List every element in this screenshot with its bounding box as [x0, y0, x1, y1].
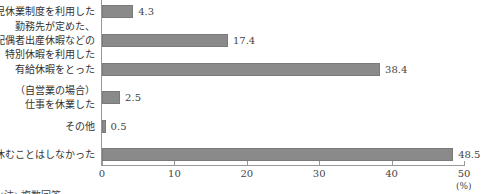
bar-value-label: 17.4	[233, 35, 255, 47]
x-tick	[319, 161, 320, 166]
x-tick	[102, 161, 103, 166]
x-tick-label: 40	[385, 168, 398, 180]
x-tick-label: 50	[458, 168, 471, 180]
bar-value-label: 0.5	[111, 121, 127, 133]
category-label: 勤務先が定めた、配偶者出産休暇などの特別休暇を利用した	[0, 20, 95, 62]
bar	[102, 5, 133, 18]
bar	[102, 34, 228, 47]
category-label: 育児休業制度を利用した	[0, 5, 95, 19]
bar	[102, 120, 106, 133]
x-axis-unit: (%)	[456, 181, 472, 191]
x-tick	[464, 161, 465, 166]
x-tick	[247, 161, 248, 166]
category-label: その他	[65, 120, 95, 134]
x-tick-label: 20	[240, 168, 253, 180]
bar	[102, 91, 120, 104]
category-label: （自営業の場合）仕事を休業した	[15, 84, 95, 112]
x-tick-label: 10	[168, 168, 181, 180]
bar-value-label: 4.3	[138, 6, 154, 18]
bar-value-label: 48.5	[458, 149, 480, 161]
category-label: 有給休暇をとった	[15, 63, 95, 77]
bar-value-label: 2.5	[125, 92, 141, 104]
x-axis-line	[101, 165, 465, 166]
x-tick	[174, 161, 175, 166]
x-tick-label: 0	[99, 168, 105, 180]
x-tick-label: 30	[313, 168, 326, 180]
x-tick	[392, 161, 393, 166]
chart-note: (注) 複数回答	[0, 187, 61, 194]
category-label: 休むことはしなかった	[0, 148, 95, 162]
bar-value-label: 38.4	[385, 64, 407, 76]
bar	[102, 148, 453, 161]
bar-chart: (%) (注) 複数回答 4.3育児休業制度を利用した17.4勤務先が定めた、配…	[0, 0, 485, 194]
y-axis-line	[101, 0, 102, 166]
bar	[102, 63, 380, 76]
